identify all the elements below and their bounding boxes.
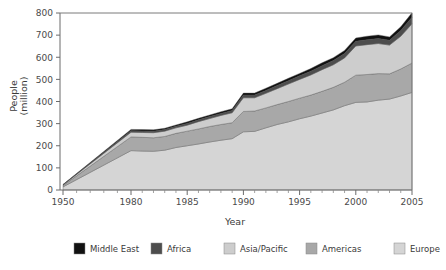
y-tick-label: 400 <box>36 97 53 107</box>
y-tick-label: 800 <box>36 8 53 18</box>
x-tick-label: 2005 <box>401 197 424 207</box>
y-tick-label: 200 <box>36 141 53 151</box>
legend-label-americas: Americas <box>322 244 362 254</box>
y-tick-label: 700 <box>36 30 53 40</box>
legend-swatch-africa <box>151 243 162 254</box>
y-tick-label: 100 <box>36 163 53 173</box>
x-tick-label: 2000 <box>344 197 367 207</box>
y-axis-title-line2: (million) <box>18 76 29 115</box>
x-tick-label: 1980 <box>120 197 143 207</box>
legend-label-asia-pacific: Asia/Pacific <box>240 244 288 254</box>
legend-label-africa: Africa <box>167 244 191 254</box>
x-tick-label: 1985 <box>176 197 199 207</box>
x-tick-label: 1990 <box>232 197 255 207</box>
x-tick-label: 1950 <box>52 197 75 207</box>
y-axis-title: People (million) <box>8 76 29 115</box>
stacked-area-chart: People (million) 01002003004005006007008… <box>0 0 446 270</box>
legend-swatch-americas <box>306 243 317 254</box>
x-axis-title: Year <box>224 216 245 227</box>
y-tick-label: 0 <box>47 185 53 195</box>
y-tick-label: 500 <box>36 75 53 85</box>
y-tick-label: 600 <box>36 53 53 63</box>
x-tick-label: 1995 <box>288 197 311 207</box>
y-tick-label: 300 <box>36 119 53 129</box>
legend-label-middle-east: Middle East <box>90 244 140 254</box>
legend-swatch-middle-east <box>74 243 85 254</box>
legend-swatch-asia-pacific <box>224 243 235 254</box>
legend-swatch-europe <box>394 243 405 254</box>
legend-label-europe: Europe <box>410 244 440 254</box>
